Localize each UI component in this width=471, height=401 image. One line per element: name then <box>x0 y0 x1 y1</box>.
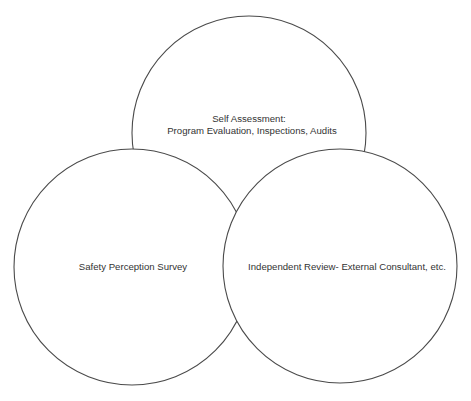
circle-self-assessment-label-line1: Self Assessment: <box>212 113 286 124</box>
circle-safety-perception-survey-label: Safety Perception Survey <box>79 261 187 272</box>
circle-safety-perception-survey: Safety Perception Survey <box>14 149 250 385</box>
circle-self-assessment-label-line2: Program Evaluation, Inspections, Audits <box>167 125 337 136</box>
venn-diagram: Self Assessment: Program Evaluation, Ins… <box>0 0 471 401</box>
circle-independent-review: Independent Review- External Consultant,… <box>223 149 457 383</box>
circle-independent-review-label: Independent Review- External Consultant,… <box>248 261 446 272</box>
